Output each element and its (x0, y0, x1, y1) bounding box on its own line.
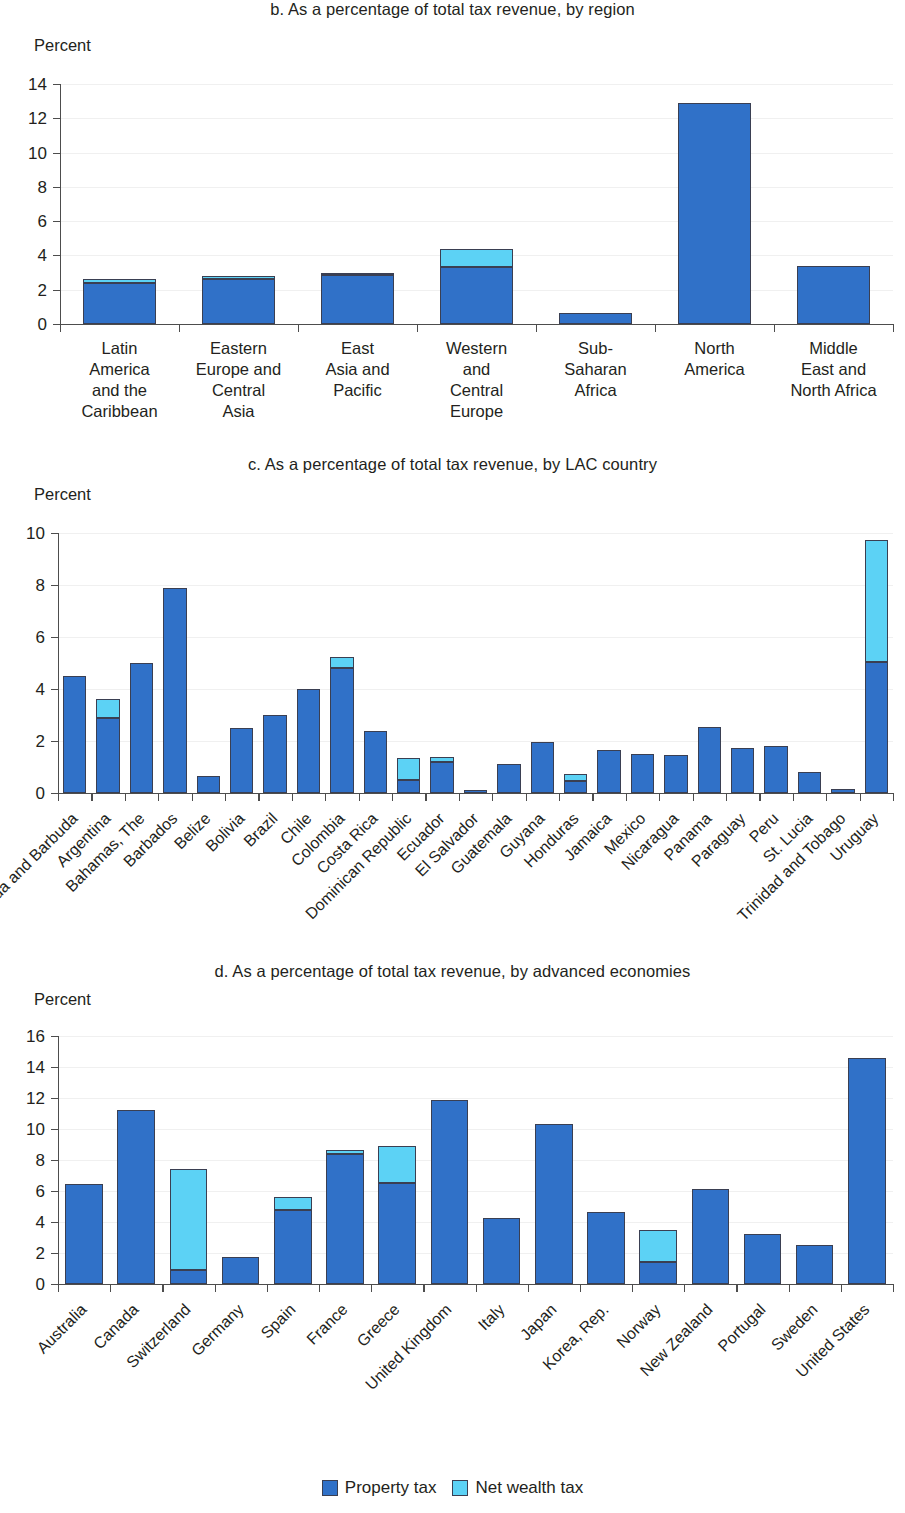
x-tick-mark (655, 324, 656, 332)
x-axis-label-line: Central (411, 380, 542, 401)
legend-label-property-tax: Property tax (345, 1478, 437, 1498)
bar (297, 533, 320, 793)
bar-segment-property-tax (639, 1262, 677, 1284)
x-tick-mark (60, 324, 61, 332)
bar (831, 533, 854, 793)
bar (397, 533, 420, 793)
x-axis-label-line: Saharan (530, 359, 661, 380)
x-axis-label-line: North (649, 338, 780, 359)
bar-segment-property-tax (797, 266, 871, 324)
bar (83, 84, 157, 324)
y-tick-mark (51, 793, 58, 794)
legend-swatch-net-wealth-tax (452, 1480, 468, 1496)
bar-segment-property-tax (587, 1212, 625, 1284)
y-tick-mark (51, 741, 58, 742)
x-axis-label-line: East (292, 338, 423, 359)
x-axis-label-line: Latin (54, 338, 185, 359)
x-tick-mark (325, 793, 326, 801)
panel-b-plot: 02468101214LatinAmericaand theCaribbeanE… (0, 68, 905, 438)
bar-segment-net-wealth-tax (170, 1169, 208, 1270)
x-tick-mark (292, 793, 293, 801)
bar-segment-net-wealth-tax (564, 774, 587, 782)
bar (678, 84, 752, 324)
bar-segment-property-tax (222, 1257, 260, 1284)
x-tick-mark (158, 793, 159, 801)
bar-segment-property-tax (263, 715, 286, 793)
bar-segment-net-wealth-tax (430, 757, 453, 762)
bar (664, 533, 687, 793)
y-tick-mark (53, 324, 60, 325)
x-tick-mark (58, 793, 59, 801)
bar (130, 533, 153, 793)
x-axis-label-line: and (411, 359, 542, 380)
bar-segment-property-tax (431, 1100, 469, 1284)
bar-segment-property-tax (96, 718, 119, 793)
y-tick-mark (51, 1160, 58, 1161)
bar (744, 1036, 782, 1284)
x-tick-mark (392, 793, 393, 801)
x-tick-mark (893, 1284, 894, 1292)
x-axis-label-line: Eastern (173, 338, 304, 359)
bar-segment-net-wealth-tax (639, 1230, 677, 1262)
bar (197, 533, 220, 793)
bar (117, 1036, 155, 1284)
panel-c-title: c. As a percentage of total tax revenue,… (0, 455, 905, 474)
y-tick-mark (53, 187, 60, 188)
bar (497, 533, 520, 793)
x-tick-mark (215, 1284, 216, 1292)
bar (559, 84, 633, 324)
bar-segment-property-tax (197, 776, 220, 793)
x-tick-mark (726, 793, 727, 801)
x-tick-mark (793, 793, 794, 801)
y-tick-label: 4 (36, 681, 45, 698)
x-tick-mark (162, 1284, 163, 1292)
bar (798, 533, 821, 793)
x-tick-mark (526, 793, 527, 801)
bar-segment-property-tax (597, 750, 620, 793)
x-tick-mark (267, 1284, 268, 1292)
bar (96, 533, 119, 793)
x-axis-label: NorthAmerica (649, 338, 780, 380)
y-tick-mark (51, 1067, 58, 1068)
legend-swatch-property-tax (322, 1480, 338, 1496)
bar (848, 1036, 886, 1284)
bar-segment-property-tax (692, 1189, 730, 1284)
x-tick-mark (319, 1284, 320, 1292)
bar (440, 84, 514, 324)
x-tick-mark (789, 1284, 790, 1292)
x-axis-label-line: and the (54, 380, 185, 401)
bar (564, 533, 587, 793)
y-tick-mark (53, 84, 60, 85)
bar-segment-net-wealth-tax (321, 273, 395, 275)
chart-legend: Property tax Net wealth tax (0, 1478, 905, 1498)
x-axis-label-line: Europe and (173, 359, 304, 380)
x-axis-label: WesternandCentralEurope (411, 338, 542, 422)
x-tick-mark (592, 793, 593, 801)
x-axis-label-line: Sub- (530, 338, 661, 359)
x-axis-label-line: Africa (530, 380, 661, 401)
x-axis-label-line: Europe (411, 401, 542, 422)
bar-segment-property-tax (631, 754, 654, 793)
bar-segment-property-tax (664, 755, 687, 793)
y-axis-line (58, 533, 59, 793)
bar (274, 1036, 312, 1284)
bar (692, 1036, 730, 1284)
x-axis-label: MiddleEast andNorth Africa (768, 338, 899, 401)
y-tick-label: 6 (38, 213, 47, 230)
y-tick-label: 8 (38, 178, 47, 195)
x-tick-mark (423, 1284, 424, 1292)
x-tick-mark (626, 793, 627, 801)
x-tick-mark (774, 324, 775, 332)
panel-d-title: d. As a percentage of total tax revenue,… (0, 962, 905, 981)
bar (587, 1036, 625, 1284)
x-tick-mark (298, 324, 299, 332)
bar (483, 1036, 521, 1284)
bar-segment-property-tax (397, 780, 420, 793)
bar (263, 533, 286, 793)
bar-segment-property-tax (378, 1183, 416, 1284)
y-tick-label: 12 (26, 1090, 45, 1107)
x-tick-mark (693, 793, 694, 801)
legend-label-net-wealth-tax: Net wealth tax (475, 1478, 583, 1498)
bar (378, 1036, 416, 1284)
bar-segment-property-tax (130, 663, 153, 793)
